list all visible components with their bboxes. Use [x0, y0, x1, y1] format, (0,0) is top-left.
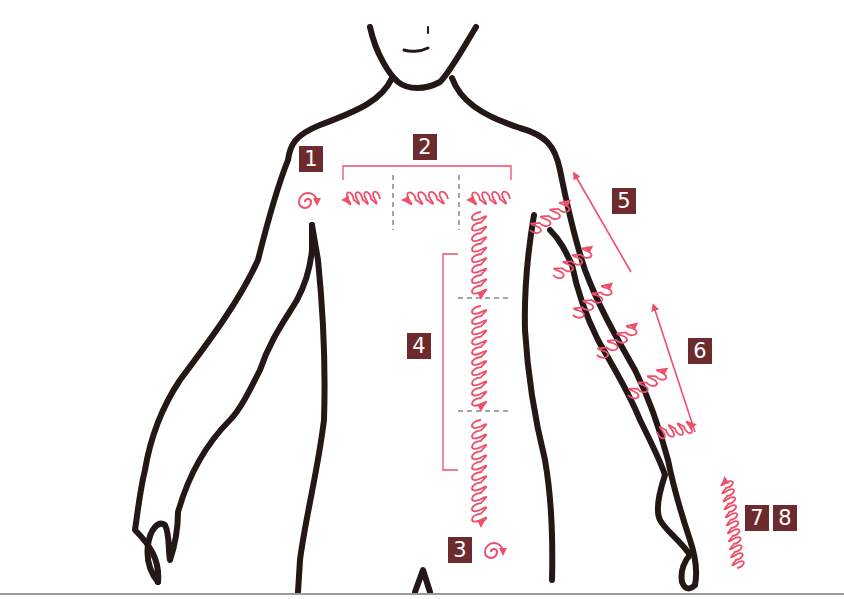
- coil-stroke: [470, 192, 510, 205]
- spiral-step-1: [299, 193, 317, 208]
- step-badge-3: 3: [448, 537, 472, 563]
- coil-stroke: [472, 212, 486, 296]
- coil-stroke: [405, 192, 448, 205]
- body-outline: [135, 27, 696, 592]
- massage-diagram: 1 2 3 4 5 6 7 8: [0, 0, 844, 599]
- step-badge-7: 7: [745, 505, 769, 531]
- spiral-step-3: [485, 543, 503, 558]
- step-badge-4: 4: [407, 333, 431, 359]
- step-badge-5: 5: [612, 188, 636, 214]
- step-badge-6: 6: [688, 338, 712, 364]
- step-badge-1: 1: [299, 146, 323, 172]
- coil-stroke: [472, 420, 486, 524]
- section-dividers: [393, 175, 511, 411]
- coil-stroke: [472, 306, 486, 408]
- coil-stroke: [345, 192, 380, 205]
- coil-stroke: [721, 480, 744, 568]
- step-badge-2: 2: [413, 134, 437, 160]
- step-badge-8: 8: [773, 505, 797, 531]
